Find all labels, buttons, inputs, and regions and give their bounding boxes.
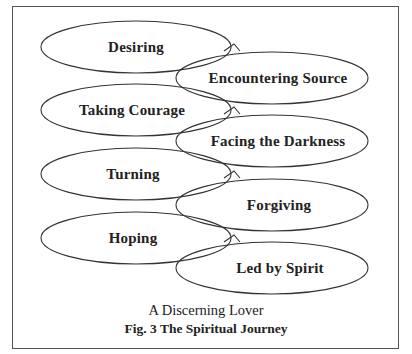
stage-label-taking-courage: Taking Courage: [79, 102, 185, 119]
figure-subtitle: A Discerning Lover: [0, 302, 412, 319]
stage-label-desiring: Desiring: [108, 39, 164, 56]
stage-label-facing-the-darkness: Facing the Darkness: [211, 133, 346, 150]
stage-label-turning: Turning: [106, 166, 159, 183]
stage-label-forgiving: Forgiving: [247, 197, 311, 214]
stage-label-hoping: Hoping: [109, 230, 158, 247]
figure-caption: Fig. 3 The Spiritual Journey: [0, 321, 412, 337]
spiral-diagram: [0, 0, 412, 354]
stage-label-led-by-spirit: Led by Spirit: [236, 260, 324, 277]
stage-label-encountering-source: Encountering Source: [209, 70, 348, 87]
